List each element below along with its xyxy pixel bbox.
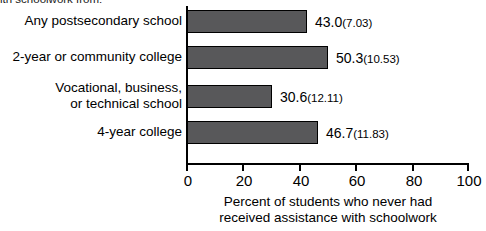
value-number: 30.6 [280, 89, 307, 105]
category-label-any-postsecondary-school: Any postsecondary school [0, 13, 182, 29]
value-label-2-year-or-community-college: 50.3(10.53) [336, 50, 400, 67]
x-tick-label-60: 60 [337, 172, 377, 189]
x-tick-80 [412, 165, 414, 171]
x-tick-label-80: 80 [394, 172, 434, 189]
value-number: 50.3 [336, 50, 363, 66]
value-standard-error: (12.11) [307, 92, 343, 104]
value-standard-error: (10.53) [363, 53, 399, 65]
x-tick-label-100: 100 [449, 172, 486, 189]
category-label-2-year-or-community-college: 2-year or community college [0, 49, 182, 65]
x-tick-label-0: 0 [168, 172, 208, 189]
bar-any-postsecondary-school [186, 10, 307, 33]
value-standard-error: (7.03) [342, 17, 372, 29]
y-axis-line [186, 6, 188, 164]
x-axis-title: Percent of students who never had receiv… [186, 194, 470, 226]
value-label-4-year-college: 46.7(11.83) [326, 125, 389, 142]
x-tick-0 [186, 165, 188, 171]
bar-2-year-or-community-college [186, 46, 328, 69]
x-tick-label-20: 20 [224, 172, 264, 189]
value-number: 43.0 [315, 14, 342, 30]
value-label-vocational-business-or-technical-school: 30.6(12.11) [280, 89, 343, 106]
bar-4-year-college [186, 121, 318, 144]
x-tick-20 [242, 165, 244, 171]
value-label-any-postsecondary-school: 43.0(7.03) [315, 14, 372, 31]
x-tick-100 [467, 165, 469, 171]
x-tick-label-40: 40 [281, 172, 321, 189]
category-label-vocational-business-or-technical-school: Vocational, business, or technical schoo… [0, 80, 182, 111]
x-axis-line [186, 163, 469, 165]
value-standard-error: (11.83) [353, 128, 389, 140]
x-tick-40 [299, 165, 301, 171]
category-label-4-year-college: 4-year college [0, 124, 182, 140]
bar-vocational-business-or-technical-school [186, 85, 272, 108]
x-tick-60 [355, 165, 357, 171]
value-number: 46.7 [326, 125, 353, 141]
